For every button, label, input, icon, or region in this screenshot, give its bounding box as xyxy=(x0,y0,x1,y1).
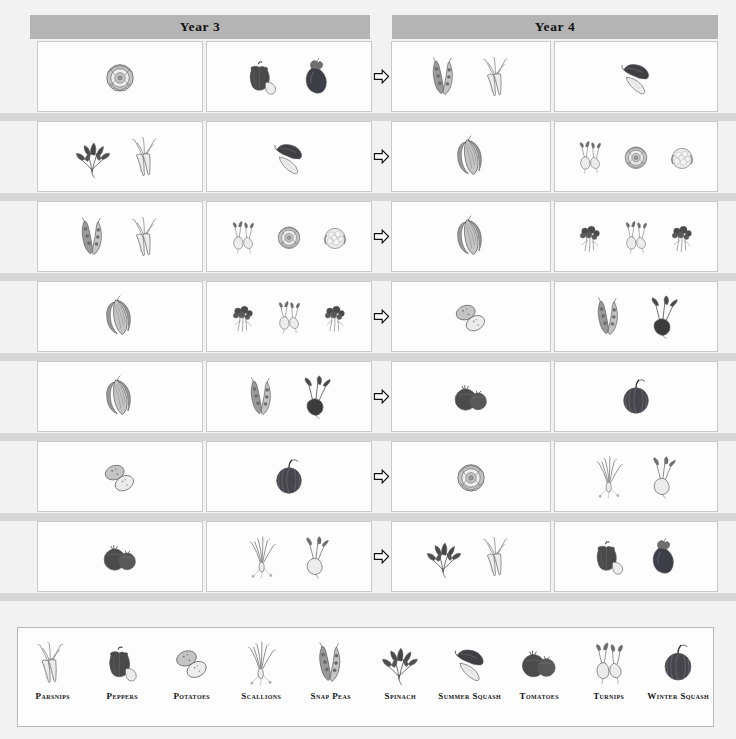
bed-cell-year4-bed-b[interactable] xyxy=(554,441,718,512)
rotation-row xyxy=(0,201,736,281)
bed-cell-year3-bed-b[interactable] xyxy=(206,201,372,272)
lettuce-icon xyxy=(618,139,654,175)
bed-cell-year4-bed-a[interactable] xyxy=(391,41,551,112)
corn-icon xyxy=(449,135,493,179)
bed-cell-year4-bed-b[interactable] xyxy=(554,201,718,272)
bed-cell-year4-bed-a[interactable] xyxy=(391,201,551,272)
legend-item-potatoes[interactable]: Potatoes xyxy=(159,637,225,702)
bed-cell-year4-bed-b[interactable] xyxy=(554,361,718,432)
bed-cell-year4-bed-b[interactable] xyxy=(554,121,718,192)
row-separator xyxy=(0,113,736,121)
tomatoes-icon xyxy=(449,375,493,419)
legend-item-label: Snap Peas xyxy=(311,691,351,702)
eggplant-icon xyxy=(641,535,685,579)
snap-peas-icon xyxy=(308,637,354,689)
potatoes-icon xyxy=(449,295,493,339)
turnips-icon xyxy=(572,139,608,175)
turnips-icon xyxy=(618,219,654,255)
rotation-row xyxy=(0,121,736,201)
bed-cell-year3-bed-b[interactable] xyxy=(206,361,372,432)
row-separator xyxy=(0,513,736,521)
arrow-right-icon xyxy=(372,121,391,192)
legend-item-parsnips[interactable]: Parsnips xyxy=(20,637,86,702)
legend-item-label: Peppers xyxy=(107,691,138,702)
cauliflower-icon xyxy=(317,219,353,255)
bed-cell-year3-bed-a[interactable] xyxy=(37,121,203,192)
year-header-bar: Year 3 Year 4 xyxy=(0,15,736,39)
bed-cell-year3-bed-a[interactable] xyxy=(37,281,203,352)
rotation-row xyxy=(0,281,736,361)
bed-cell-year4-bed-a[interactable] xyxy=(391,361,551,432)
summer-squash-icon xyxy=(267,135,311,179)
lettuce-icon xyxy=(271,219,307,255)
legend-item-scallions[interactable]: Scallions xyxy=(228,637,294,702)
arrow-right-icon xyxy=(372,281,391,352)
legend-item-label: Summer Squash xyxy=(438,691,501,702)
eggplant-icon xyxy=(294,55,338,99)
bed-cell-year4-bed-a[interactable] xyxy=(391,281,551,352)
row-separator xyxy=(0,273,736,281)
year-4-header: Year 4 xyxy=(392,15,718,39)
row-separator xyxy=(0,353,736,361)
parsnips-icon xyxy=(476,535,520,579)
broccoli-icon xyxy=(664,219,700,255)
row-separator xyxy=(0,193,736,201)
bed-cell-year3-bed-b[interactable] xyxy=(206,441,372,512)
summer-squash-icon xyxy=(614,55,658,99)
legend-item-peppers[interactable]: Peppers xyxy=(89,637,155,702)
tomatoes-icon xyxy=(98,535,142,579)
bed-cell-year4-bed-b[interactable] xyxy=(554,281,718,352)
turnips-icon xyxy=(294,535,338,579)
bed-cell-year3-bed-a[interactable] xyxy=(37,361,203,432)
rotation-row xyxy=(0,521,736,601)
spinach-icon xyxy=(71,135,115,179)
peppers-icon xyxy=(587,535,631,579)
bed-cell-year3-bed-b[interactable] xyxy=(206,521,372,592)
arrow-right-icon xyxy=(372,361,391,432)
vegetable-legend: ParsnipsPeppersPotatoesScallionsSnap Pea… xyxy=(17,627,714,727)
winter-squash-icon xyxy=(267,455,311,499)
bed-cell-year3-bed-a[interactable] xyxy=(37,201,203,272)
potatoes-icon xyxy=(98,455,142,499)
bed-cell-year4-bed-a[interactable] xyxy=(391,521,551,592)
bed-cell-year3-bed-a[interactable] xyxy=(37,521,203,592)
row-separator xyxy=(0,433,736,441)
broccoli-icon xyxy=(572,219,608,255)
legend-item-turnips[interactable]: Turnips xyxy=(576,637,642,702)
legend-item-label: Parsnips xyxy=(36,691,70,702)
turnips-icon xyxy=(225,219,261,255)
spinach-icon xyxy=(377,637,423,689)
legend-item-summer-squash[interactable]: Summer Squash xyxy=(437,637,503,702)
bed-cell-year4-bed-a[interactable] xyxy=(391,121,551,192)
lettuce-icon xyxy=(98,55,142,99)
bed-cell-year4-bed-b[interactable] xyxy=(554,521,718,592)
parsnips-icon xyxy=(30,637,76,689)
bed-cell-year3-bed-a[interactable] xyxy=(37,441,203,512)
bed-cell-year4-bed-b[interactable] xyxy=(554,41,718,112)
parsnips-icon xyxy=(125,135,169,179)
snap-peas-icon xyxy=(240,375,284,419)
turnips-icon xyxy=(641,455,685,499)
legend-item-snap-peas[interactable]: Snap Peas xyxy=(298,637,364,702)
bed-cell-year3-bed-b[interactable] xyxy=(206,41,372,112)
parsnips-icon xyxy=(476,55,520,99)
legend-item-label: Winter Squash xyxy=(647,691,709,702)
bed-cell-year3-bed-b[interactable] xyxy=(206,281,372,352)
bed-cell-year4-bed-a[interactable] xyxy=(391,441,551,512)
bed-cell-year3-bed-b[interactable] xyxy=(206,121,372,192)
row-separator xyxy=(0,593,736,601)
summer-squash-icon xyxy=(447,637,493,689)
legend-item-spinach[interactable]: Spinach xyxy=(367,637,433,702)
legend-item-label: Tomatoes xyxy=(520,691,559,702)
winter-squash-icon xyxy=(614,375,658,419)
arrow-right-icon xyxy=(372,41,391,112)
legend-item-tomatoes[interactable]: Tomatoes xyxy=(506,637,572,702)
snap-peas-icon xyxy=(71,215,115,259)
arrow-right-icon xyxy=(372,441,391,512)
bed-cell-year3-bed-a[interactable] xyxy=(37,41,203,112)
turnips-icon xyxy=(586,637,632,689)
beets-icon xyxy=(294,375,338,419)
legend-item-winter-squash[interactable]: Winter Squash xyxy=(645,637,711,702)
turnips-icon xyxy=(271,299,307,335)
scallions-icon xyxy=(240,535,284,579)
